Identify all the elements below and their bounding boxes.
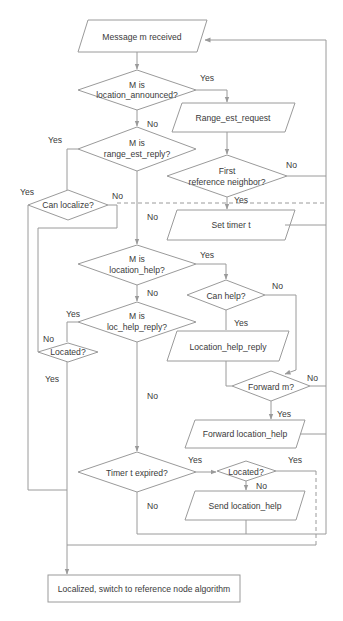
edge-label-forward-m-yes: Yes (277, 409, 291, 419)
location-help-reply-label: Location_help_reply (190, 342, 267, 352)
edge-label-timer-yes: Yes (188, 455, 202, 465)
edge-label-located-right-no: No (256, 481, 267, 491)
flowchart-canvas: Message m received M is location_announc… (0, 0, 343, 621)
timer-expired-label: Timer t expired? (106, 468, 168, 478)
first-reference-line1: First (219, 166, 236, 176)
can-help-label: Can help? (206, 291, 245, 301)
edge-label-can-help-no: No (272, 281, 283, 291)
edge-label-first-ref-yes: Yes (234, 195, 248, 205)
localized-switch-label: Localized, switch to reference node algo… (58, 584, 230, 594)
forward-m-label: Forward m? (248, 382, 294, 392)
located-left-label: Located? (50, 347, 85, 357)
edge-label-timer-no: No (147, 501, 158, 511)
edge-label-location-help-yes: Yes (200, 250, 214, 260)
edge-label-can-localize-yes: Yes (20, 187, 34, 197)
edge-label-located-left-yes: Yes (45, 374, 59, 384)
edge-label-loc-announced-no: No (147, 119, 158, 129)
edge-label-forward-m-no: No (307, 373, 318, 383)
range-est-reply-line1: M is (129, 138, 145, 148)
first-reference-neighbor-diamond (167, 155, 287, 197)
location-help-line1: M is (129, 254, 145, 264)
edge-label-can-help-yes: Yes (234, 318, 248, 328)
edge-label-first-ref-no: No (286, 160, 297, 170)
loc-help-reply-line1: M is (129, 311, 145, 321)
edge-label-range-reply-yes: Yes (48, 135, 62, 145)
forward-location-help-label: Forward location_help (203, 429, 288, 439)
send-location-help-label: Send location_help (208, 501, 281, 511)
edge-label-loc-help-reply-yes: Yes (66, 309, 80, 319)
edge-label-located-left-no: No (43, 334, 54, 344)
range-est-request-label: Range_est_request (195, 113, 270, 123)
edge-label-can-localize-no: No (112, 191, 123, 201)
range-est-reply-line2: range_est_reply? (104, 149, 170, 159)
set-timer-label: Set timer t (211, 220, 250, 230)
edge-label-range-reply-no: No (147, 212, 158, 222)
location-announced-line2: location_announced? (96, 90, 178, 100)
edge-label-loc-announced-yes: Yes (200, 73, 214, 83)
edge-label-located-right-yes: Yes (288, 455, 302, 465)
can-localize-label: Can localize? (42, 200, 94, 210)
location-help-line2: location_help? (109, 265, 164, 275)
first-reference-line2: reference neighbor? (189, 177, 266, 187)
location-announced-line1: M is (129, 80, 145, 90)
message-received-label: Message m received (102, 32, 181, 42)
edge-label-loc-help-reply-no: No (147, 391, 158, 401)
edge-label-location-help-no: No (147, 288, 158, 298)
loc-help-reply-line2: loc_help_reply? (107, 322, 167, 332)
located-right-label: Located? (228, 467, 263, 477)
